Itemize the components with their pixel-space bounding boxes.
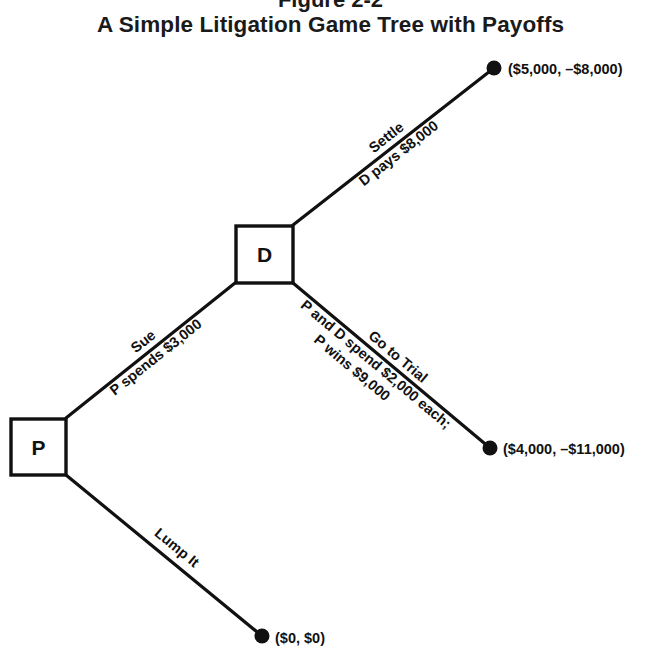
payoff-trial: ($4,000, –$11,000) bbox=[503, 441, 625, 457]
edge-label-sue-detail: P spends $3,000 bbox=[107, 316, 205, 399]
edge-label-lump-it: Lump It bbox=[152, 525, 203, 571]
edge-lump-it bbox=[66, 475, 262, 636]
node-label-d: D bbox=[257, 243, 272, 266]
decision-node-d: D bbox=[236, 226, 293, 283]
decision-node-p: P bbox=[11, 419, 66, 475]
terminal-node-lump-it bbox=[255, 629, 270, 644]
terminal-node-trial bbox=[483, 441, 498, 456]
payoff-settle: ($5,000, –$8,000) bbox=[508, 61, 623, 77]
edge-label-trial-detail-1: P and D spend $2,000 each; bbox=[298, 297, 454, 432]
node-label-p: P bbox=[31, 436, 45, 459]
game-tree-diagram: P D Sue P spends $3,000 Settle D pays $8… bbox=[0, 0, 661, 646]
terminal-node-settle bbox=[487, 61, 502, 76]
payoff-lump-it: ($0, $0) bbox=[275, 630, 325, 646]
